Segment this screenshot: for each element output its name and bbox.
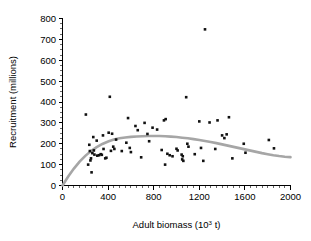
y-tick-label: 200 — [40, 138, 56, 149]
y-axis-major-ticks — [59, 19, 63, 186]
data-point — [242, 142, 245, 145]
x-tick-label: 1200 — [189, 191, 210, 202]
data-point — [90, 157, 93, 160]
data-point — [186, 142, 189, 145]
data-point — [111, 132, 114, 135]
data-point — [128, 147, 131, 150]
x-tick-label: 800 — [146, 191, 162, 202]
data-point — [140, 156, 143, 159]
y-tick-label: 100 — [40, 159, 56, 170]
x-tick-label: 2000 — [280, 191, 301, 202]
data-point — [87, 163, 90, 166]
stock-recruitment-scatter-figure: 0100200300400500600700800 04008001200160… — [0, 0, 311, 241]
data-point — [148, 140, 151, 143]
x-axis-minor-ticks — [63, 186, 291, 188]
y-tick-label: 800 — [40, 13, 56, 24]
data-point — [136, 129, 139, 132]
y-tick-label: 400 — [40, 96, 56, 107]
data-point — [164, 163, 167, 166]
data-point — [176, 149, 179, 152]
data-point — [164, 118, 167, 121]
y-tick-label: 700 — [40, 34, 56, 45]
data-point — [89, 150, 92, 153]
data-point — [166, 152, 169, 155]
data-point — [105, 156, 108, 159]
data-point — [208, 121, 211, 124]
data-point — [88, 143, 91, 146]
data-point — [231, 157, 234, 160]
chart-canvas: 0100200300400500600700800 04008001200160… — [0, 0, 311, 241]
data-point — [216, 119, 219, 122]
data-point — [143, 122, 146, 125]
y-axis-tick-labels: 0100200300400500600700800 — [40, 13, 56, 191]
data-point — [102, 148, 105, 151]
data-point — [113, 148, 116, 151]
data-point — [92, 136, 95, 139]
y-tick-label: 300 — [40, 117, 56, 128]
plot-axes — [63, 19, 291, 186]
data-point — [244, 151, 247, 154]
data-point — [151, 126, 154, 129]
data-point — [193, 153, 196, 156]
data-point — [214, 148, 217, 151]
data-point — [109, 95, 112, 98]
data-point — [127, 117, 130, 120]
data-point — [221, 134, 224, 137]
data-point — [120, 150, 123, 153]
data-point — [115, 138, 118, 141]
x-axis-title: Adult biomass (103 t) — [133, 219, 221, 231]
x-tick-label: 400 — [100, 191, 116, 202]
x-axis-tick-labels: 0400800120016002000 — [60, 191, 301, 202]
data-point — [171, 155, 174, 158]
data-point — [112, 145, 115, 148]
data-point — [204, 28, 207, 31]
data-point — [146, 133, 149, 136]
data-point — [228, 116, 231, 119]
data-point — [198, 120, 201, 123]
data-point — [130, 151, 133, 154]
data-point — [102, 134, 105, 137]
data-point — [182, 160, 185, 163]
y-tick-label: 600 — [40, 55, 56, 66]
data-point — [185, 96, 188, 99]
data-point — [223, 137, 226, 140]
data-point — [273, 147, 276, 150]
x-tick-label: 0 — [60, 191, 65, 202]
data-point-series — [85, 28, 276, 174]
data-point — [107, 131, 110, 134]
data-point — [225, 133, 228, 136]
y-axis-title: Recruitment (millions) — [7, 56, 18, 148]
data-point — [93, 149, 96, 152]
fit-curve — [63, 136, 291, 185]
data-point — [110, 150, 113, 153]
y-tick-label: 500 — [40, 76, 56, 87]
data-point — [156, 128, 159, 131]
data-point — [85, 113, 88, 116]
data-point — [101, 154, 104, 157]
data-point — [268, 139, 271, 142]
data-point — [181, 155, 184, 158]
data-point — [160, 149, 163, 152]
data-point — [93, 153, 96, 156]
data-point — [187, 145, 190, 148]
y-tick-label: 0 — [51, 180, 56, 191]
x-tick-label: 1600 — [234, 191, 255, 202]
data-point — [168, 154, 171, 157]
data-point — [134, 125, 137, 128]
data-point — [90, 171, 93, 174]
data-point — [200, 147, 203, 150]
data-point — [95, 139, 98, 142]
data-point — [202, 160, 205, 163]
data-point — [125, 141, 128, 144]
